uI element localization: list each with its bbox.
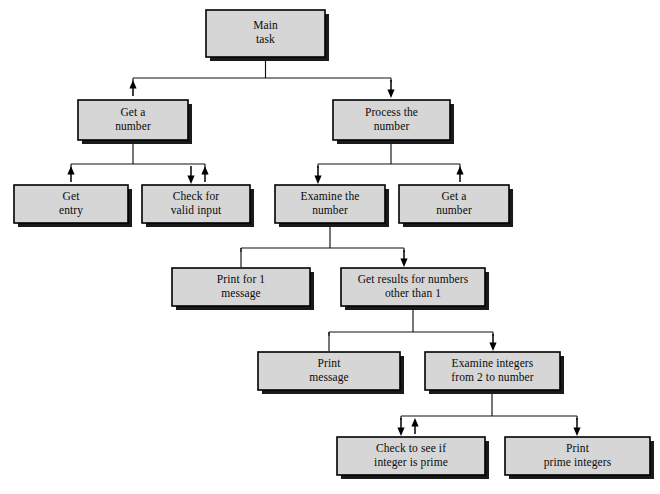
node-layer: MaintaskGet anumberProcess thenumberGete…	[14, 10, 654, 479]
node-label-line: Print for 1	[217, 273, 266, 285]
node-label-line: number	[374, 120, 410, 132]
node-label-line: Check to see if	[376, 442, 446, 454]
node-print-prime-integers[interactable]: Printprime integers	[505, 437, 654, 479]
connector-from-get-a-number-2	[456, 166, 463, 182]
structure-chart-diagram: MaintaskGet anumberProcess thenumberGete…	[0, 0, 660, 494]
connector-main-to-get-a-number	[129, 80, 136, 96]
node-check-integer-prime[interactable]: Check to see ifinteger is prime	[337, 437, 489, 479]
node-label-line: Print	[566, 442, 590, 454]
connector-to-get-entry	[67, 166, 74, 182]
connector-from-check-valid	[201, 166, 208, 182]
connector-from-check-prime	[411, 418, 418, 434]
node-label-line: valid input	[171, 204, 222, 217]
node-label-line: number	[436, 204, 472, 216]
node-label-line: Get	[63, 190, 81, 202]
node-examine-the-number[interactable]: Examine thenumber	[275, 185, 389, 227]
node-get-results-other-than-1[interactable]: Get results for numbersother than 1	[341, 268, 489, 310]
connector-bus-level2-right	[318, 164, 460, 168]
connector-to-print-prime	[573, 418, 580, 436]
connector-to-examine-integers	[489, 334, 496, 351]
node-print-message[interactable]: Printmessage	[258, 352, 404, 394]
node-get-entry[interactable]: Getentry	[14, 185, 132, 227]
connector-main-to-process	[387, 80, 394, 98]
connector-bus-level5	[401, 416, 577, 420]
node-label-line: Get a	[441, 190, 466, 202]
node-examine-integers[interactable]: Examine integersfrom 2 to number	[425, 352, 564, 394]
node-label-line: number	[312, 204, 348, 216]
node-label-line: Get a	[120, 106, 145, 118]
connector-to-check-prime	[397, 418, 404, 436]
connector-to-check-valid	[187, 166, 194, 184]
node-label-line: prime integers	[544, 456, 612, 469]
node-label-line: Examine integers	[452, 357, 534, 370]
diagram-canvas: MaintaskGet anumberProcess thenumberGete…	[0, 0, 660, 494]
node-check-for-valid-input[interactable]: Check forvalid input	[142, 185, 254, 227]
node-label-line: message	[221, 287, 261, 300]
node-label-line: number	[115, 120, 151, 132]
node-label-line: Check for	[173, 190, 220, 202]
node-label-line: entry	[59, 204, 83, 217]
node-get-a-number-2[interactable]: Get anumber	[399, 185, 513, 227]
node-label-line: from 2 to number	[451, 371, 533, 383]
node-label-line: Process the	[365, 106, 418, 118]
connector-bus-level4	[329, 332, 493, 336]
node-process-the-number[interactable]: Process thenumber	[333, 100, 454, 144]
connector-bus-level3	[241, 248, 404, 252]
connector-to-get-results	[400, 250, 407, 267]
node-main-task[interactable]: Maintask	[206, 10, 329, 61]
node-label-line: Get results for numbers	[358, 273, 469, 285]
node-label-line: message	[309, 371, 349, 384]
node-label-line: Examine the	[301, 190, 360, 202]
node-label-line: Main	[253, 19, 278, 31]
node-label-line: integer is prime	[374, 456, 448, 469]
connector-bus-level2-left	[71, 164, 205, 168]
node-print-for-1-message[interactable]: Print for 1message	[172, 268, 314, 310]
node-label-line: task	[256, 33, 275, 45]
connector-to-examine-number	[314, 166, 321, 184]
connector-bus-level1	[133, 78, 391, 82]
node-label-line: Print	[318, 357, 342, 369]
node-get-a-number[interactable]: Get anumber	[78, 100, 192, 144]
node-label-line: other than 1	[385, 287, 441, 299]
